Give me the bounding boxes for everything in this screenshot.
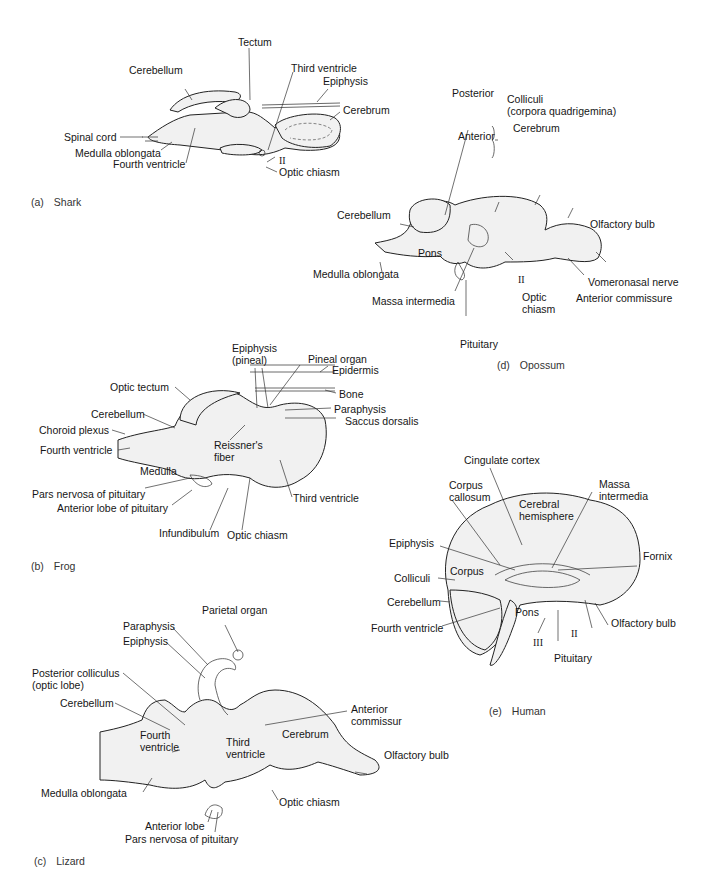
- label-optic-chiasm: Optic chiasm: [227, 529, 288, 541]
- label-pituitary: Pituitary: [554, 652, 592, 664]
- label-epidermis: Epidermis: [332, 364, 379, 376]
- label-cranial-nerve-ii: II: [518, 274, 525, 286]
- caption-name: Lizard: [56, 855, 85, 867]
- label-fourth-ventricle: Fourth ventricle: [113, 158, 185, 170]
- label-cingulate-cortex: Cingulate cortex: [464, 454, 540, 466]
- label-vomeronasal-nerve: Vomeronasal nerve: [588, 276, 678, 288]
- label-reissners: Reissner's: [214, 439, 263, 451]
- label-hemisphere: hemisphere: [519, 510, 574, 522]
- label-cerebellum: Cerebellum: [337, 209, 391, 221]
- label-epiphysis: Epiphysis: [123, 635, 168, 647]
- label-paraphysis: Paraphysis: [334, 403, 386, 415]
- caption-name: Shark: [54, 196, 81, 208]
- label-spinal-cord: Spinal cord: [64, 131, 117, 143]
- label-fornix: Fornix: [643, 550, 672, 562]
- label-optic-lobe: (optic lobe): [32, 679, 84, 691]
- label-epiphysis: Epiphysis: [232, 342, 277, 354]
- label-optic-tectum: Optic tectum: [110, 381, 169, 393]
- label-cerebrum: Cerebrum: [513, 122, 560, 134]
- opossum-brain-drawing: [375, 126, 606, 316]
- label-olfactory-bulb: Olfactory bulb: [611, 617, 676, 629]
- label-cerebellum: Cerebellum: [60, 697, 114, 709]
- label-corpora-quadrigemina: (corpora quadrigemina): [507, 105, 616, 117]
- label-posterior: Posterior: [452, 87, 494, 99]
- label-optic-chiasm: Optic chiasm: [279, 796, 340, 808]
- label-anterior-lobe: Anterior lobe: [145, 820, 205, 832]
- label-ventricle-3: ventricle: [226, 748, 265, 760]
- label-medulla-oblongata: Medulla oblongata: [313, 268, 399, 280]
- label-medulla: Medulla: [140, 465, 177, 477]
- caption-opossum: (d)Opossum: [497, 359, 565, 371]
- label-corpus-2: Corpus: [450, 565, 484, 577]
- caption-name: Human: [512, 705, 546, 717]
- caption-letter: (a): [31, 196, 44, 208]
- label-tectum: Tectum: [238, 36, 272, 48]
- caption-letter: (c): [34, 855, 46, 867]
- label-commissur: commissur: [351, 715, 402, 727]
- label-pituitary: Pituitary: [460, 338, 498, 350]
- label-fourth-ventricle: Fourth ventricle: [371, 622, 443, 634]
- label-massa: Massa: [599, 478, 630, 490]
- label-pars-nervosa: Pars nervosa of pituitary: [125, 833, 238, 845]
- caption-letter: (b): [31, 560, 44, 572]
- label-cerebral: Cerebral: [519, 498, 559, 510]
- caption-frog: (b)Frog: [31, 560, 75, 572]
- label-cranial-nerve-iii: III: [533, 637, 543, 649]
- label-fourth: Fourth: [140, 729, 170, 741]
- label-cranial-nerve-ii: II: [571, 628, 578, 640]
- label-third: Third: [226, 736, 250, 748]
- label-anterior-commissure: Anterior commissure: [576, 292, 672, 304]
- label-medulla-oblongata: Medulla oblongata: [41, 787, 127, 799]
- label-infundibulum: Infundibulum: [159, 527, 219, 539]
- caption-human: (e)Human: [489, 705, 546, 717]
- label-pars-nervosa: Pars nervosa of pituitary: [32, 488, 145, 500]
- label-fourth-ventricle: Fourth ventricle: [40, 444, 112, 456]
- label-pons: Pons: [515, 606, 539, 618]
- label-colliculi: Colliculi: [507, 93, 543, 105]
- label-posterior-colliculus: Posterior colliculus: [32, 667, 120, 679]
- label-saccus-dorsalis: Saccus dorsalis: [345, 415, 419, 427]
- label-parietal-organ: Parietal organ: [202, 604, 267, 616]
- label-cerebrum: Cerebrum: [343, 104, 390, 116]
- label-third-ventricle: Third ventricle: [291, 62, 357, 74]
- label-anterior: Anterior: [351, 703, 388, 715]
- caption-lizard: (c)Lizard: [34, 855, 85, 867]
- label-corpus: Corpus: [449, 479, 483, 491]
- caption-name: Opossum: [520, 359, 565, 371]
- label-bone: Bone: [339, 388, 364, 400]
- label-cerebrum: Cerebrum: [282, 728, 329, 740]
- caption-name: Frog: [54, 560, 76, 572]
- label-pons: Pons: [418, 247, 442, 259]
- label-cerebellum: Cerebellum: [91, 408, 145, 420]
- label-choroid-plexus: Choroid plexus: [39, 424, 109, 436]
- label-anterior: Anterior: [458, 130, 495, 142]
- label-fiber: fiber: [214, 451, 234, 463]
- label-olfactory-bulb: Olfactory bulb: [590, 218, 655, 230]
- label-ventricle-4: ventricle: [140, 741, 179, 753]
- label-intermedia: intermedia: [599, 490, 648, 502]
- label-colliculi: Colliculi: [394, 572, 430, 584]
- label-olfactory-bulb: Olfactory bulb: [384, 749, 449, 761]
- caption-letter: (e): [489, 705, 502, 717]
- label-pineal: (pineal): [232, 354, 267, 366]
- label-chiasm: chiasm: [522, 303, 555, 315]
- label-cerebellum: Cerebellum: [387, 596, 441, 608]
- label-paraphysis: Paraphysis: [123, 620, 175, 632]
- caption-shark: (a)Shark: [31, 196, 81, 208]
- label-cerebellum: Cerebellum: [129, 64, 183, 76]
- label-third-ventricle: Third ventricle: [293, 492, 359, 504]
- label-optic-chiasm: Optic chiasm: [279, 166, 340, 178]
- label-epiphysis: Epiphysis: [323, 75, 368, 87]
- label-massa-intermedia: Massa intermedia: [372, 295, 455, 307]
- label-epiphysis: Epiphysis: [389, 537, 434, 549]
- label-optic: Optic: [522, 291, 547, 303]
- caption-letter: (d): [497, 359, 510, 371]
- label-callosum: callosum: [449, 491, 490, 503]
- label-anterior-lobe: Anterior lobe of pituitary: [57, 502, 168, 514]
